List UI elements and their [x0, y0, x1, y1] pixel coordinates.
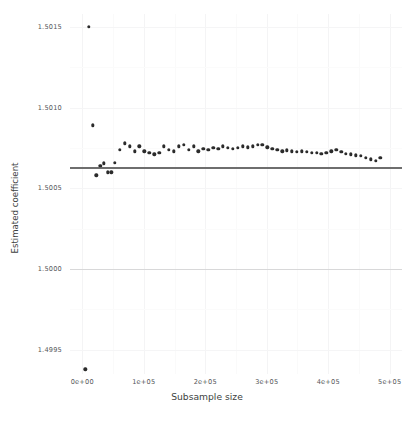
y-gridline — [70, 27, 402, 28]
scatter-point — [216, 147, 219, 150]
scatter-point — [231, 147, 234, 150]
scatter-point — [118, 148, 121, 151]
y-gridline-minor — [70, 229, 402, 230]
scatter-point — [339, 150, 342, 153]
plot-area — [70, 14, 402, 374]
fitted-reference-line — [70, 167, 402, 169]
scatter-point — [335, 148, 338, 151]
y-gridline — [70, 188, 402, 189]
scatter-point — [143, 150, 146, 153]
scatter-point — [285, 149, 288, 152]
scatter-point — [123, 141, 126, 144]
scatter-point — [212, 146, 215, 149]
scatter-point — [182, 143, 185, 146]
x-tick-label: 5e+05 — [378, 378, 401, 386]
scatter-point — [133, 150, 136, 153]
y-gridline-minor — [70, 67, 402, 68]
scatter-point — [226, 146, 229, 149]
scatter-point — [95, 174, 98, 177]
x-axis-tick-labels: 0e+001e+052e+053e+054e+055e+05 — [0, 378, 414, 392]
scatter-point — [84, 367, 87, 370]
scatter-point — [113, 161, 116, 164]
y-tick-label: 1.4995 — [38, 346, 62, 354]
x-tick-label: 4e+05 — [317, 378, 340, 386]
y-gridline-minor — [70, 309, 402, 310]
scatter-point — [310, 151, 313, 154]
scatter-point — [236, 146, 239, 149]
scatter-point — [187, 148, 190, 151]
x-tick-label: 0e+00 — [71, 378, 94, 386]
scatter-point — [344, 152, 347, 155]
scatter-point — [271, 147, 274, 150]
y-gridline — [70, 350, 402, 351]
y-tick-label: 1.5000 — [38, 265, 62, 273]
scatter-point — [280, 150, 283, 153]
x-tick-label: 1e+05 — [132, 378, 155, 386]
y-axis-title: Estimated coefficient — [8, 0, 22, 421]
scatter-point — [320, 152, 323, 155]
scatter-point — [349, 153, 352, 156]
scatter-point — [275, 148, 278, 151]
scatter-point — [305, 150, 308, 153]
scatter-point — [379, 156, 382, 159]
scatter-point — [315, 151, 318, 154]
y-tick-label: 1.5005 — [38, 184, 62, 192]
scatter-point — [261, 143, 264, 146]
scatter-point — [167, 148, 170, 151]
scatter-point — [91, 124, 94, 127]
true-value-gridline — [70, 269, 402, 270]
chart-figure: 1.50151.50101.50051.50001.4995 0e+001e+0… — [0, 0, 414, 421]
y-tick-label: 1.5015 — [38, 23, 62, 31]
scatter-point — [153, 153, 156, 156]
scatter-point — [369, 158, 372, 161]
x-tick-label: 3e+05 — [255, 378, 278, 386]
scatter-point — [354, 154, 357, 157]
x-axis-title: Subsample size — [0, 391, 414, 402]
scatter-point — [290, 150, 293, 153]
scatter-point — [364, 156, 367, 159]
y-axis-title-text: Estimated coefficient — [10, 163, 20, 254]
scatter-point — [300, 150, 303, 153]
y-gridline — [70, 108, 402, 109]
scatter-point — [148, 151, 151, 154]
scatter-point — [102, 162, 105, 165]
scatter-point — [157, 151, 160, 154]
scatter-point — [359, 154, 362, 157]
scatter-point — [207, 148, 210, 151]
scatter-point — [374, 159, 377, 162]
scatter-point — [256, 143, 259, 146]
scatter-point — [330, 150, 333, 153]
scatter-point — [87, 25, 90, 28]
scatter-point — [197, 150, 200, 153]
x-tick-label: 2e+05 — [194, 378, 217, 386]
y-tick-label: 1.5010 — [38, 104, 62, 112]
